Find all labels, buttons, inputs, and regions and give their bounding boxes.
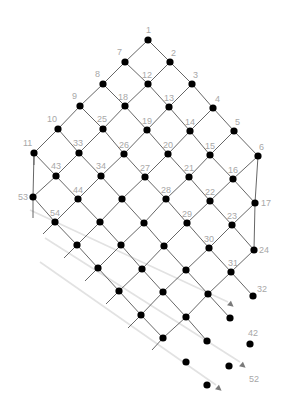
lattice-node bbox=[182, 266, 189, 273]
node-label: 44 bbox=[73, 185, 83, 195]
lattice-node bbox=[254, 152, 261, 159]
node-label: 6 bbox=[259, 142, 264, 152]
node-label: 16 bbox=[228, 165, 238, 175]
lattice-node bbox=[29, 193, 36, 200]
lattice-edge bbox=[192, 84, 213, 108]
node-label: 14 bbox=[185, 117, 195, 127]
node-label: 30 bbox=[204, 234, 214, 244]
lattice-node bbox=[54, 125, 61, 132]
lattice-node bbox=[206, 197, 213, 204]
lattice-node bbox=[249, 292, 256, 299]
node-label: 3 bbox=[193, 70, 198, 80]
lattice-node bbox=[143, 126, 150, 133]
lattice-edge bbox=[98, 245, 121, 268]
lattice-edge bbox=[100, 222, 121, 245]
lattice-edge bbox=[100, 199, 122, 222]
lattice-node bbox=[76, 102, 83, 109]
node-label: 11 bbox=[23, 138, 32, 148]
lattice-edge bbox=[186, 294, 208, 317]
node-label: 25 bbox=[97, 114, 107, 124]
lattice-edge bbox=[232, 225, 254, 250]
lattice-edge bbox=[142, 269, 163, 292]
lattice-node bbox=[229, 175, 236, 182]
node-label: 20 bbox=[163, 140, 173, 150]
lattice-node bbox=[162, 195, 169, 202]
node-label: 5 bbox=[235, 117, 240, 127]
node-label: 34 bbox=[96, 161, 106, 171]
arrowhead-icon bbox=[227, 301, 235, 309]
lattice-node bbox=[251, 199, 258, 206]
node-label: 26 bbox=[119, 140, 129, 150]
lattice-node bbox=[227, 268, 234, 275]
lattice-node bbox=[118, 195, 125, 202]
node-label: 7 bbox=[117, 47, 122, 57]
lattice-node bbox=[94, 264, 101, 271]
lattice-edge bbox=[125, 40, 148, 62]
lattice-node bbox=[96, 218, 103, 225]
lattice-node bbox=[205, 244, 212, 251]
lattice-node bbox=[52, 172, 59, 179]
lattice-edge bbox=[78, 199, 100, 222]
lattice-node bbox=[99, 80, 106, 87]
lattice-node bbox=[140, 219, 147, 226]
lattice-node bbox=[188, 80, 195, 87]
lattice-edge bbox=[34, 129, 58, 153]
lattice-node bbox=[75, 149, 82, 156]
lattice-edge bbox=[255, 156, 258, 203]
lattice-edge bbox=[125, 84, 148, 106]
node-label: 53 bbox=[18, 192, 28, 202]
lattice-node bbox=[144, 80, 151, 87]
lattice-edge bbox=[144, 223, 164, 246]
lattice-edge bbox=[101, 176, 122, 199]
lattice-node bbox=[165, 103, 172, 110]
node-label: 12 bbox=[142, 70, 152, 80]
node-label: 33 bbox=[73, 138, 83, 148]
arrowhead-icon bbox=[239, 362, 247, 370]
guide-line bbox=[45, 238, 240, 362]
lattice-edge bbox=[103, 62, 125, 84]
arrowheads bbox=[215, 301, 247, 393]
guide-line bbox=[30, 210, 228, 302]
lattice-node bbox=[228, 221, 235, 228]
node-label: 32 bbox=[257, 284, 267, 294]
node-label: 27 bbox=[140, 163, 150, 173]
lattice-edge bbox=[233, 179, 255, 203]
lattice-edge bbox=[33, 176, 56, 197]
lattice-edge bbox=[98, 268, 119, 291]
lattice-node bbox=[141, 173, 148, 180]
lattice-node bbox=[246, 340, 253, 347]
lattice-node bbox=[203, 381, 210, 388]
lattice-diagram: 1728123918134102519145113326201564334272… bbox=[0, 0, 283, 412]
lattice-node bbox=[51, 218, 58, 225]
node-label: 22 bbox=[205, 187, 215, 197]
lattice-node bbox=[159, 334, 166, 341]
node-label: 19 bbox=[142, 116, 152, 126]
node-label: 21 bbox=[184, 163, 194, 173]
lattice-edge bbox=[119, 269, 142, 291]
lattice-node bbox=[230, 127, 237, 134]
lattice-edge bbox=[164, 246, 186, 270]
node-label: 17 bbox=[261, 198, 271, 208]
node-label: 15 bbox=[205, 141, 215, 151]
node-label: 54 bbox=[50, 208, 60, 218]
lattice-node bbox=[183, 219, 190, 226]
lattice-node bbox=[121, 102, 128, 109]
lattice-edge bbox=[186, 248, 209, 270]
lattice-node bbox=[204, 290, 211, 297]
edge-stubs bbox=[33, 153, 163, 350]
lattice-edge bbox=[213, 108, 234, 131]
node-label: 29 bbox=[182, 209, 192, 219]
lattice-node bbox=[160, 242, 167, 249]
lattice-node bbox=[144, 36, 151, 43]
node-label: 42 bbox=[248, 328, 258, 338]
lattice-node bbox=[182, 358, 189, 365]
node-label: 8 bbox=[95, 69, 100, 79]
node-label: 4 bbox=[215, 94, 220, 104]
lattice-node bbox=[138, 265, 145, 272]
lattice-edge bbox=[122, 199, 144, 223]
guide-line bbox=[40, 262, 216, 385]
lattice-node bbox=[73, 241, 80, 248]
lattice-node bbox=[182, 313, 189, 320]
lattice-edge bbox=[144, 199, 166, 223]
node-label: 13 bbox=[164, 93, 174, 103]
